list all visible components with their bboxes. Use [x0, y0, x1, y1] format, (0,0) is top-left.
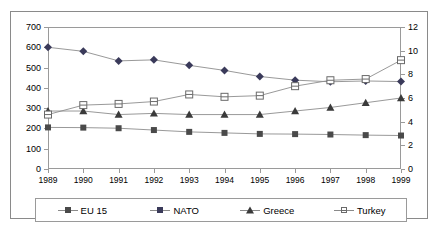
data-point-filled-diamond — [397, 78, 405, 86]
x-tick — [225, 169, 226, 173]
legend-marker-filled-triangle-icon — [240, 210, 260, 211]
data-point-filled-square — [45, 124, 51, 130]
x-tick — [366, 169, 367, 173]
series-plot — [48, 27, 401, 169]
x-tick — [330, 169, 331, 173]
data-point-open-square — [186, 91, 193, 98]
data-point-filled-diamond — [185, 61, 193, 69]
data-point-open-square — [150, 98, 157, 105]
x-tick-label: 1994 — [215, 175, 234, 185]
plot-area: 0100200300400500600700 024681012 1989199… — [48, 27, 401, 169]
data-point-filled-triangle — [150, 109, 158, 116]
y-tick-label-left: 200 — [26, 123, 41, 133]
legend-item-turkey[interactable]: Turkey — [314, 205, 407, 216]
y-tick-label-right: 0 — [408, 164, 413, 174]
x-tick-label: 1995 — [250, 175, 269, 185]
data-point-open-square — [80, 102, 87, 109]
y-tick-label-right: 6 — [408, 93, 413, 103]
y-tick-right — [401, 74, 405, 75]
data-point-filled-diamond — [150, 56, 158, 64]
data-point-filled-diamond — [44, 43, 52, 51]
data-point-open-square — [256, 92, 263, 99]
x-tick — [119, 169, 120, 173]
y-tick-label-left: 400 — [26, 83, 41, 93]
y-tick-label-left: 100 — [26, 144, 41, 154]
data-point-filled-diamond — [79, 47, 87, 55]
legend-symbol — [341, 207, 347, 213]
data-point-filled-square — [186, 129, 192, 135]
x-tick-label: 1997 — [321, 175, 340, 185]
y-tick-right — [401, 27, 405, 28]
y-tick-label-left: 500 — [26, 63, 41, 73]
data-point-filled-square — [292, 131, 298, 137]
x-tick-label: 1998 — [356, 175, 375, 185]
data-point-open-square — [292, 83, 299, 90]
legend-item-eu-15[interactable]: EU 15 — [36, 205, 129, 216]
chart-legend: EU 15NATOGreeceTurkey — [35, 198, 407, 222]
x-tick — [154, 169, 155, 173]
y-tick-label-right: 2 — [408, 140, 413, 150]
data-point-open-square — [115, 100, 122, 107]
legend-label: Turkey — [357, 205, 386, 216]
legend-label: NATO — [173, 205, 199, 216]
x-tick — [260, 169, 261, 173]
y-tick-label-right: 12 — [408, 22, 418, 32]
legend-label: Greece — [263, 205, 294, 216]
data-point-open-square — [221, 93, 228, 100]
x-tick-label: 1993 — [180, 175, 199, 185]
data-point-open-square — [327, 77, 334, 84]
x-tick — [401, 169, 402, 173]
y-tick-label-right: 10 — [408, 46, 418, 56]
data-point-filled-square — [398, 133, 404, 139]
data-point-open-square — [362, 76, 369, 83]
data-point-filled-square — [327, 132, 333, 138]
x-tick — [83, 169, 84, 173]
x-tick — [295, 169, 296, 173]
series-line-nato — [48, 47, 401, 81]
y-tick-label-left: 300 — [26, 103, 41, 113]
legend-marker-filled-diamond-icon — [150, 210, 170, 211]
data-point-open-square — [45, 111, 52, 118]
chart-frame: 0100200300400500600700 024681012 1989199… — [10, 11, 428, 219]
data-point-filled-square — [116, 125, 122, 131]
y-tick-label-right: 4 — [408, 117, 413, 127]
data-point-open-square — [398, 57, 405, 64]
x-tick-label: 1996 — [286, 175, 305, 185]
y-tick-label-left: 700 — [26, 22, 41, 32]
legend-symbol — [246, 207, 254, 214]
legend-symbol — [65, 207, 71, 213]
y-tick-label-right: 8 — [408, 69, 413, 79]
x-tick-label: 1990 — [74, 175, 93, 185]
y-tick-right — [401, 51, 405, 52]
x-tick — [189, 169, 190, 173]
legend-label: EU 15 — [81, 205, 107, 216]
y-tick-right — [401, 122, 405, 123]
legend-symbol — [157, 207, 163, 213]
x-tick-label: 1989 — [39, 175, 58, 185]
x-tick-label: 1992 — [144, 175, 163, 185]
data-point-filled-diamond — [115, 57, 123, 65]
y-tick-label-left: 0 — [36, 164, 41, 174]
y-tick-right — [401, 145, 405, 146]
plot-inner: 0100200300400500600700 024681012 1989199… — [48, 27, 401, 169]
data-point-filled-square — [222, 130, 228, 136]
data-point-filled-square — [257, 131, 263, 137]
legend-item-greece[interactable]: Greece — [221, 205, 314, 216]
y-tick-label-left: 600 — [26, 42, 41, 52]
legend-item-nato[interactable]: NATO — [129, 205, 222, 216]
x-tick-label: 1999 — [392, 175, 411, 185]
x-tick-label: 1991 — [109, 175, 128, 185]
data-point-filled-square — [80, 125, 86, 131]
legend-marker-filled-square-icon — [58, 210, 78, 211]
data-point-filled-square — [151, 127, 157, 133]
legend-marker-open-square-icon — [334, 210, 354, 211]
data-point-filled-diamond — [221, 66, 229, 74]
x-tick — [48, 169, 49, 173]
data-point-filled-diamond — [256, 72, 264, 80]
data-point-filled-square — [363, 132, 369, 138]
